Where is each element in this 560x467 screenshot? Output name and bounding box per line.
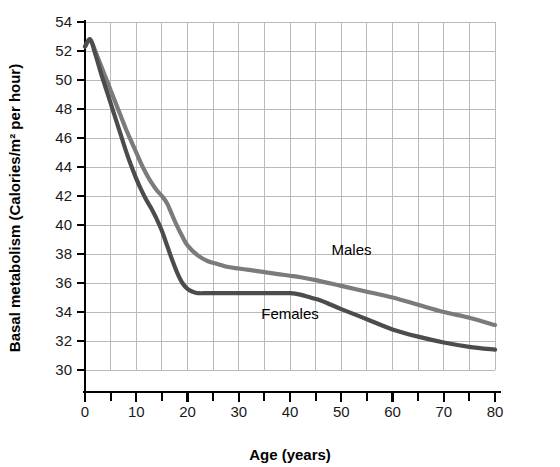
y-tick-label: 34 [55, 303, 72, 320]
x-tick-label: 40 [282, 403, 299, 420]
series-label-females: Females [261, 305, 319, 322]
y-tick-label: 50 [55, 71, 72, 88]
tick-labels-group: 3032343638404244464850525401020304050607… [55, 13, 503, 420]
y-tick-label: 48 [55, 100, 72, 117]
y-tick-label: 42 [55, 187, 72, 204]
series-label-males: Males [331, 241, 371, 258]
y-tick-label: 44 [55, 158, 72, 175]
y-tick-label: 30 [55, 361, 72, 378]
x-tick-label: 0 [81, 403, 89, 420]
y-tick-label: 54 [55, 13, 72, 30]
y-axis-title: Basal metabolism (Calories/m² per hour) [6, 64, 23, 352]
x-axis-title: Age (years) [249, 446, 331, 463]
tick-marks-group [77, 22, 495, 402]
y-tick-label: 52 [55, 42, 72, 59]
x-tick-label: 70 [435, 403, 452, 420]
x-tick-label: 60 [384, 403, 401, 420]
x-tick-label: 30 [230, 403, 247, 420]
x-tick-label: 20 [179, 403, 196, 420]
y-tick-label: 46 [55, 129, 72, 146]
x-tick-label: 80 [487, 403, 504, 420]
y-tick-label: 32 [55, 332, 72, 349]
x-tick-label: 50 [333, 403, 350, 420]
y-tick-label: 36 [55, 274, 72, 291]
y-tick-label: 40 [55, 216, 72, 233]
basal-metabolism-chart: 3032343638404244464850525401020304050607… [0, 0, 560, 467]
y-tick-label: 38 [55, 245, 72, 262]
axes-group [83, 20, 501, 392]
chart-canvas: 3032343638404244464850525401020304050607… [0, 0, 560, 467]
x-tick-label: 10 [128, 403, 145, 420]
